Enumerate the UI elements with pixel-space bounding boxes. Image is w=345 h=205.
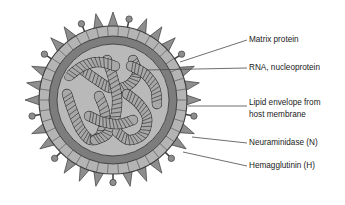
neuraminidase-knob: [110, 179, 116, 185]
label-rna-nucleoprotein: RNA, nucleoprotein: [249, 63, 320, 72]
neuraminidase-knob: [29, 113, 35, 119]
virus-diagram: Matrix protein RNA, nucleoprotein Lipid …: [0, 0, 345, 205]
neuraminidase-knob: [126, 16, 132, 22]
label-lipid-envelope-line1: Lipid envelope from: [249, 98, 321, 107]
label-neuraminidase: Neuraminidase (N): [249, 138, 318, 147]
label-lipid-envelope-line2: host membrane: [249, 110, 306, 119]
neuraminidase-knob: [178, 51, 184, 57]
label-matrix-protein: Matrix protein: [249, 35, 299, 44]
influenza-virus-figure: Matrix protein RNA, nucleoprotein Lipid …: [0, 0, 345, 205]
neuraminidase-knob: [191, 113, 197, 119]
neuraminidase-knob: [168, 155, 174, 161]
neuraminidase-knob: [41, 51, 47, 57]
neuraminidase-knob: [78, 21, 84, 27]
neuraminidase-knob: [51, 155, 57, 161]
label-hemagglutinin: Hemagglutinin (H): [249, 161, 315, 170]
